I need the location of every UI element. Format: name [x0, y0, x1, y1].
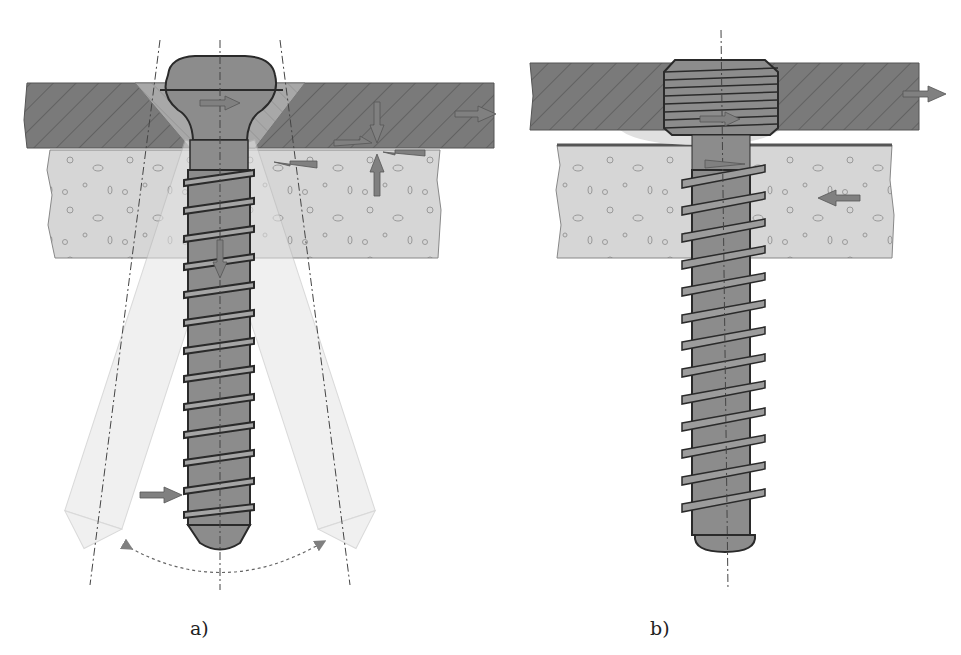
screw-tip-b	[695, 535, 755, 552]
screw-neck-a	[190, 140, 248, 170]
screw-tip-a	[188, 525, 250, 550]
screw-fixation-diagram	[0, 0, 961, 655]
panel-a-label: a)	[190, 617, 209, 639]
panel-a	[24, 40, 496, 590]
arrow-shaft-right-icon	[140, 487, 182, 503]
screw-b	[664, 60, 778, 552]
panel-b	[530, 30, 946, 590]
panel-b-label: b)	[650, 617, 670, 639]
